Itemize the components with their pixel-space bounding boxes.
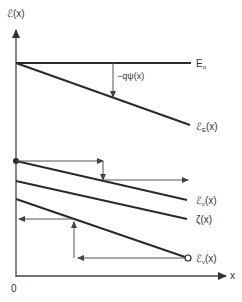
- fermi-level-line: [16, 181, 187, 219]
- origin-label: 0: [11, 283, 17, 294]
- hole-path: [19, 219, 185, 258]
- band-diagram: ℰ(x) x 0 Eo ℰE(x) −qψ(x) ℰc(x) ζ(x) ℰv(x…: [0, 0, 242, 302]
- y-axis-label: ℰ(x): [7, 8, 25, 19]
- x-axis-label: x: [230, 270, 235, 281]
- valence-band-line: [16, 199, 185, 257]
- electron-level-label: ℰE(x): [196, 121, 218, 133]
- vacuum-level-label: Eo: [196, 58, 207, 70]
- potential-label: −qψ(x): [117, 71, 144, 81]
- valence-band-label: ℰv(x): [196, 253, 217, 265]
- fermi-level-label: ζ(x): [196, 214, 212, 226]
- valence-band-end-hole: [185, 255, 191, 261]
- conduction-band-label: ℰc(x): [196, 195, 217, 207]
- electron-path: [16, 161, 188, 180]
- electron-level-line: [16, 63, 190, 125]
